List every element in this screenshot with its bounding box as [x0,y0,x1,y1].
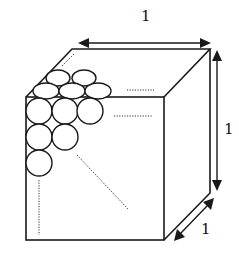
sphere [33,83,59,99]
sphere [26,124,52,150]
sphere [26,98,52,124]
dotted-line-front-diagonal [77,155,128,209]
arrowhead-down-icon [212,180,222,191]
depth-label: 1 [201,220,211,238]
dotted-line-top-diagonal [62,54,74,66]
sphere [77,98,103,124]
height-dimension-arrow [212,50,222,191]
cube-sphere-packing-diagram: 1 1 1 [0,0,239,262]
sphere [85,83,111,99]
arrowhead-up-icon [212,50,222,61]
sphere [59,83,85,99]
cube-right-face-edges [164,49,210,240]
sphere [52,124,78,150]
arrowhead-left-icon [78,38,89,48]
width-label: 1 [141,7,151,25]
sphere [26,150,52,176]
sphere [52,98,78,124]
front-spheres [26,98,103,176]
arrowhead-right-icon [200,38,211,48]
height-label: 1 [224,120,234,138]
width-dimension-arrow [78,38,211,48]
top-spheres [33,70,111,99]
